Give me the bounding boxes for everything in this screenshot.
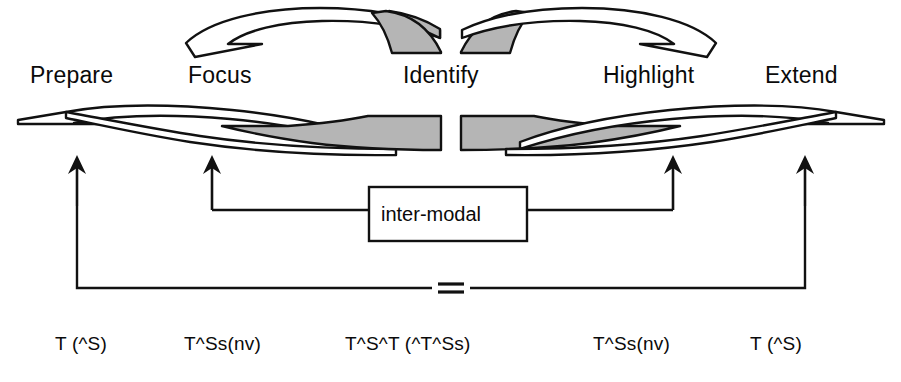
diagram-graphics xyxy=(0,0,901,382)
stage-label-focus: Focus xyxy=(188,62,252,89)
arrow-extend xyxy=(796,155,814,206)
formula-label-extend: T (^S) xyxy=(750,333,802,355)
stage-label-identify: Identify xyxy=(403,62,479,89)
top-right-swoosh xyxy=(461,8,716,57)
top-left-swoosh xyxy=(186,8,441,57)
formula-label-focus: T^Ss(nv) xyxy=(184,333,261,355)
stage-label-highlight: Highlight xyxy=(603,62,694,89)
arrow-prepare xyxy=(68,155,86,206)
formula-label-identify: T^S^T (^T^Ss) xyxy=(345,333,471,355)
stage-label-extend: Extend xyxy=(765,62,838,89)
bottom-left-swoosh xyxy=(18,106,441,155)
arrow-focus xyxy=(203,155,221,210)
stage-label-prepare: Prepare xyxy=(30,62,113,89)
bottom-right-swoosh xyxy=(461,106,884,155)
diagram-canvas: Prepare Focus Identify Highlight Extend … xyxy=(0,0,901,382)
formula-label-highlight: T^Ss(nv) xyxy=(593,333,670,355)
arrow-highlight xyxy=(664,155,682,210)
formula-label-prepare: T (^S) xyxy=(55,333,107,355)
inter-modal-label: inter-modal xyxy=(381,203,481,226)
